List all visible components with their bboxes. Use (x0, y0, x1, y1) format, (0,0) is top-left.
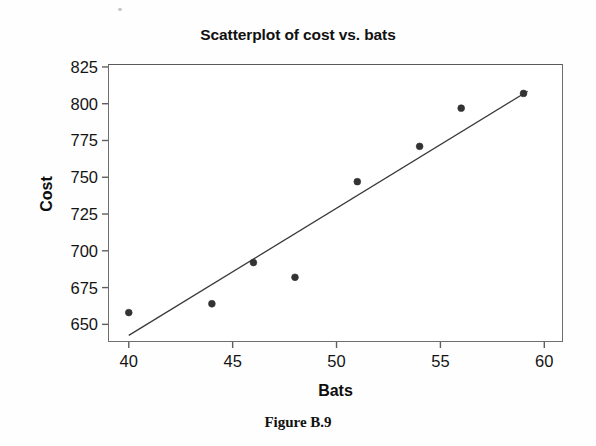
figure-container: Scatterplot of cost vs. bats 65067570072… (0, 0, 596, 446)
figure-caption: Figure B.9 (0, 414, 596, 431)
x-tick-label-50: 50 (307, 352, 367, 371)
x-axis-tick-labels: 4045505560 (0, 352, 596, 378)
scan-speck (118, 8, 122, 11)
y-tick-label-800: 800 (52, 94, 98, 113)
y-tick-label-775: 775 (52, 131, 98, 150)
plot-frame (108, 64, 563, 342)
y-tick-label-650: 650 (52, 315, 98, 334)
y-tick-label-700: 700 (52, 241, 98, 260)
x-tick-label-60: 60 (514, 352, 574, 371)
y-tick-label-750: 750 (52, 168, 98, 187)
x-axis-title: Bats (108, 382, 563, 400)
y-tick-label-675: 675 (52, 278, 98, 297)
y-tick-label-725: 725 (52, 205, 98, 224)
x-tick-label-45: 45 (203, 352, 263, 371)
y-axis-title: Cost (38, 139, 56, 249)
x-tick-label-40: 40 (99, 352, 159, 371)
y-tick-label-825: 825 (52, 57, 98, 76)
x-tick-label-55: 55 (410, 352, 470, 371)
